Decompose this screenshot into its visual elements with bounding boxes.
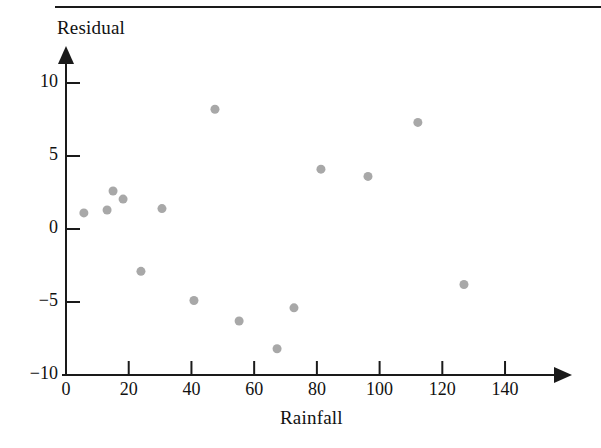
x-tick-label: 0 (36, 379, 96, 400)
data-points-group (79, 105, 468, 353)
x-tick-label: 40 (161, 379, 221, 400)
axes-group (62, 62, 556, 375)
y-axis-title: Residual (57, 17, 125, 39)
data-point (413, 118, 422, 127)
data-point (235, 316, 244, 325)
data-point (316, 165, 325, 174)
x-tick-label: 20 (99, 379, 159, 400)
data-point (210, 105, 219, 114)
data-point (103, 206, 112, 215)
scatter-plot-figure: Residual Rainfall −10−50510 020406080100… (0, 0, 601, 448)
data-point (189, 296, 198, 305)
x-tick-label: 120 (412, 379, 472, 400)
data-point (157, 204, 166, 213)
x-axis-ticks (66, 361, 505, 375)
data-point (79, 208, 88, 217)
data-point (136, 267, 145, 276)
data-point (273, 344, 282, 353)
y-tick-label: 10 (0, 71, 58, 92)
x-axis-title: Rainfall (280, 407, 343, 429)
x-tick-label: 60 (224, 379, 284, 400)
y-axis-ticks (66, 83, 80, 375)
data-point (363, 172, 372, 181)
data-point (109, 187, 118, 196)
y-tick-label: −5 (0, 290, 58, 311)
x-tick-label: 80 (287, 379, 347, 400)
y-tick-label: 0 (0, 217, 58, 238)
x-tick-label: 100 (350, 379, 410, 400)
data-point (119, 195, 128, 204)
x-tick-label: 140 (475, 379, 535, 400)
y-tick-label: 5 (0, 144, 58, 165)
data-point (459, 280, 468, 289)
data-point (289, 303, 298, 312)
